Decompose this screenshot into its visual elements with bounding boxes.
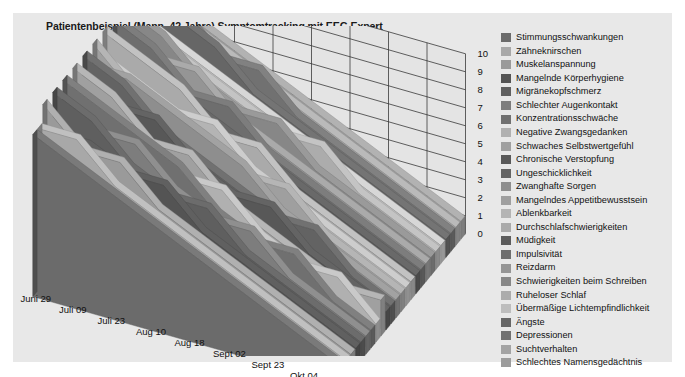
legend-item[interactable]: Ablenkbarkeit (501, 207, 681, 221)
z-axis-tick-8: 8 (478, 84, 483, 95)
z-axis-tick-3: 3 (478, 174, 483, 185)
legend-swatch-icon (501, 331, 511, 340)
legend-item-label: Zwanghafte Sorgen (516, 182, 596, 191)
legend-item[interactable]: Suchtverhalten (501, 343, 681, 357)
legend-swatch-icon (501, 74, 511, 83)
z-axis-tick-0: 0 (478, 228, 483, 239)
z-axis-tick-2: 2 (478, 192, 483, 203)
legend-item-label: Mangelnde Körperhygiene (516, 74, 624, 83)
category-label-5: Sept 02 (213, 348, 246, 359)
legend-item[interactable]: Konzentrationsschwäche (501, 112, 681, 126)
legend-item[interactable]: Muskelanspannung (501, 58, 681, 72)
legend-item-label: Zähneknirschen (516, 47, 581, 56)
legend-swatch-icon (501, 209, 511, 218)
legend-swatch-icon (501, 115, 511, 124)
legend-item-label: Impulsivität (516, 250, 562, 259)
legend-item-label: Negative Zwangsgedanken (516, 128, 627, 137)
legend-item-label: Ablenkbarkeit (516, 209, 572, 218)
z-axis-tick-9: 9 (478, 66, 483, 77)
legend-item[interactable]: Schlechter Augenkontakt (501, 99, 681, 113)
legend-item-label: Durchschlafschwierigkeiten (516, 223, 627, 232)
legend-item-label: Ungeschicklichkeit (516, 169, 592, 178)
legend-item-label: Mangelndes Appetitbewusstsein (516, 196, 647, 205)
legend-swatch-icon (501, 60, 511, 69)
legend-item-label: Migränekopfschmerz (516, 87, 601, 96)
legend-item-label: Übermäßige Lichtempfindlichkeit (516, 304, 649, 313)
legend-swatch-icon (501, 101, 511, 110)
z-axis-tick-7: 7 (478, 102, 483, 113)
legend-swatch-icon (501, 291, 511, 300)
legend-swatch-icon (501, 277, 511, 286)
legend-item[interactable]: Depressionen (501, 329, 681, 343)
legend-swatch-icon (501, 345, 511, 354)
legend-swatch-icon (501, 264, 511, 273)
legend-swatch-icon (501, 155, 511, 164)
category-label-0: Juni 29 (21, 293, 52, 304)
legend-swatch-icon (501, 196, 511, 205)
legend-swatch-icon (501, 87, 511, 96)
legend-item[interactable]: Schlechtes Namensgedächtnis (501, 356, 681, 370)
legend-item[interactable]: Durchschlafschwierigkeiten (501, 221, 681, 235)
legend-swatch-icon (501, 142, 511, 151)
legend-item-label: Ängste (516, 318, 545, 327)
legend-item-label: Konzentrationsschwäche (516, 114, 618, 123)
legend-item[interactable]: Müdigkeit (501, 234, 681, 248)
legend-item-label: Reizdarm (516, 263, 555, 272)
z-axis-tick-1: 1 (478, 210, 483, 221)
legend-item-label: Ruheloser Schlaf (516, 291, 586, 300)
legend-item[interactable]: Ruheloser Schlaf (501, 288, 681, 302)
legend-swatch-icon (501, 223, 511, 232)
legend-item[interactable]: Schwierigkeiten beim Schreiben (501, 275, 681, 289)
z-axis-tick-4: 4 (478, 156, 483, 167)
legend-item[interactable]: Migränekopfschmerz (501, 85, 681, 99)
chart-legend: StimmungsschwankungenZähneknirschenMuske… (501, 31, 681, 370)
legend-item[interactable]: Impulsivität (501, 248, 681, 262)
legend-swatch-icon (501, 47, 511, 56)
category-label-2: Juli 23 (98, 315, 125, 326)
legend-item[interactable]: Negative Zwangsgedanken (501, 126, 681, 140)
z-axis-tick-6: 6 (478, 120, 483, 131)
legend-item[interactable]: Mangelndes Appetitbewusstsein (501, 194, 681, 208)
legend-swatch-icon (501, 169, 511, 178)
legend-swatch-icon (501, 128, 511, 137)
category-label-3: Aug 10 (136, 326, 166, 337)
legend-item-label: Depressionen (516, 331, 573, 340)
legend-item-label: Schwaches Selbstwertgefühl (516, 142, 633, 151)
legend-swatch-icon (501, 236, 511, 245)
category-label-7: Okt 04 (290, 370, 318, 377)
legend-item[interactable]: Stimmungsschwankungen (501, 31, 681, 45)
legend-swatch-icon (501, 304, 511, 313)
legend-item[interactable]: Mangelnde Körperhygiene (501, 72, 681, 86)
legend-item[interactable]: Übermäßige Lichtempfindlichkeit (501, 302, 681, 316)
legend-item[interactable]: Zähneknirschen (501, 45, 681, 59)
legend-item-label: Schlechter Augenkontakt (516, 101, 618, 110)
legend-item-label: Suchtverhalten (516, 345, 577, 354)
legend-item[interactable]: Ungeschicklichkeit (501, 166, 681, 180)
legend-item[interactable]: Chronische Verstopfung (501, 153, 681, 167)
category-label-1: Juli 09 (59, 304, 86, 315)
z-axis-tick-10: 10 (478, 48, 489, 59)
category-label-4: Aug 18 (175, 337, 205, 348)
legend-item-label: Stimmungsschwankungen (516, 33, 623, 42)
legend-item-label: Chronische Verstopfung (516, 155, 614, 164)
legend-item[interactable]: Schwaches Selbstwertgefühl (501, 139, 681, 153)
z-axis-tick-5: 5 (478, 138, 483, 149)
legend-swatch-icon (501, 358, 511, 367)
legend-swatch-icon (501, 318, 511, 327)
legend-item-label: Muskelanspannung (516, 60, 596, 69)
legend-item-label: Schlechtes Namensgedächtnis (516, 358, 642, 367)
legend-item[interactable]: Reizdarm (501, 261, 681, 275)
legend-item[interactable]: Zwanghafte Sorgen (501, 180, 681, 194)
legend-swatch-icon (501, 33, 511, 42)
legend-item[interactable]: Ängste (501, 315, 681, 329)
legend-item-label: Schwierigkeiten beim Schreiben (516, 277, 647, 286)
legend-swatch-icon (501, 250, 511, 259)
legend-item-label: Müdigkeit (516, 236, 555, 245)
chart-screenshot: Patientenbeispiel (Mann, 42 Jahre) Sympt… (0, 0, 685, 377)
legend-swatch-icon (501, 182, 511, 191)
category-label-6: Sept 23 (252, 359, 285, 370)
